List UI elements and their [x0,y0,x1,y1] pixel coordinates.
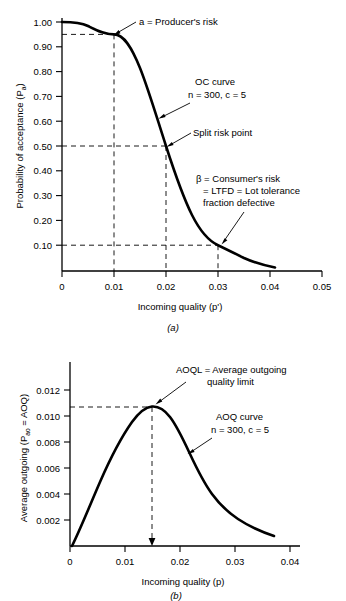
annotation-oc-curve-line2: n = 300, c = 5 [188,89,246,100]
annotation-consumers-risk-line2: = LTFD = Lot tolerance [203,185,300,196]
arrowhead-oc-curve [159,114,166,119]
y-ticks-b [64,390,70,520]
annotation-aoq-curve-line1: AOQ curve [216,411,263,422]
y-tick-label-a: 1.00 [34,17,53,28]
leader-consumers-risk [224,212,244,241]
y-tick-label-a: 0.30 [34,190,53,201]
y-tick-label-a: 0.80 [34,66,53,77]
guide-lines-b [70,407,152,540]
y-tick-label-b: 0.012 [36,385,60,396]
x-tick-label-b: 0.03 [226,556,245,567]
annotation-consumers-risk-line3: fraction defective [203,197,275,208]
y-tick-label-a: 0.90 [34,41,53,52]
arrowhead-consumers-risk [222,238,228,244]
x-tick-label-b: 0 [67,556,72,567]
y-tick-label-b: 0.002 [36,515,60,526]
x-tick-label-a: 0.02 [157,281,176,292]
x-tick-label-b: 0.01 [116,556,135,567]
y-tick-label-a: 0.70 [34,91,53,102]
annotation-consumers-risk-line1: β = Consumer's risk [196,173,280,184]
leader-oc-curve [162,103,190,117]
arrowhead-split-risk [167,142,174,147]
annotation-split-risk: Split risk point [193,127,252,138]
leader-split-risk [170,133,191,145]
y-tick-label-b: 0.006 [36,463,60,474]
arrowhead-aoql-down [149,538,156,546]
arrowhead-aoql [156,399,163,405]
x-ticks-a [62,271,322,277]
y-axis-title-b: Average outgoing (Pao = AOQ) [18,394,31,522]
annotation-producers-risk: a = Producer's risk [139,16,218,27]
panel-letter-a: (a) [167,322,179,333]
oc-curve-svg: 1.00 0.90 0.80 0.70 0.60 0.50 0.40 0.30 … [0,0,346,340]
y-tick-label-b: 0.004 [36,489,60,500]
panel-letter-b: (b) [170,590,182,601]
leader-aoq-curve [191,438,212,452]
x-tick-label-a: 0.04 [261,281,280,292]
y-axis-title-a: Probability of acceptance (Pa) [14,83,27,208]
x-tick-label-a: 0 [59,281,64,292]
y-tick-label-a: 0.20 [34,215,53,226]
y-ticks-a [56,22,62,245]
y-tick-label-a: 0.10 [34,240,53,251]
x-axis-title-b: Incoming quality (p) [142,576,225,587]
x-tick-label-a: 0.01 [105,281,124,292]
x-tick-label-a: 0.05 [313,281,332,292]
leader-producers-risk [117,22,136,33]
figure-container: 1.00 0.90 0.80 0.70 0.60 0.50 0.40 0.30 … [0,0,346,601]
annotation-aoql-line1: AOQL = Average outgoing [176,364,287,375]
annotation-aoql-line2: quality limit [207,376,254,387]
aoq-curve-svg: 0.012 0.010 0.008 0.006 0.004 0.002 0 0.… [0,340,346,601]
x-tick-label-b: 0.02 [171,556,190,567]
y-tick-label-a: 0.50 [34,141,53,152]
chart-panel-b: 0.012 0.010 0.008 0.006 0.004 0.002 0 0.… [0,340,346,601]
x-tick-label-a: 0.03 [209,281,228,292]
leader-aoql [159,382,186,402]
oc-curve-path [62,22,275,268]
y-tick-label-a: 0.60 [34,116,53,127]
x-axis-title-a: Incoming quality (p') [138,301,223,312]
x-ticks-b [70,546,290,552]
y-tick-label-b: 0.008 [36,437,60,448]
y-tick-label-a: 0.40 [34,165,53,176]
annotation-aoq-curve-line2: n = 300, c = 5 [211,424,269,435]
annotation-oc-curve-line1: OC curve [195,76,235,87]
x-tick-label-b: 0.04 [281,556,300,567]
y-tick-label-b: 0.010 [36,411,60,422]
chart-panel-a: 1.00 0.90 0.80 0.70 0.60 0.50 0.40 0.30 … [0,0,346,340]
